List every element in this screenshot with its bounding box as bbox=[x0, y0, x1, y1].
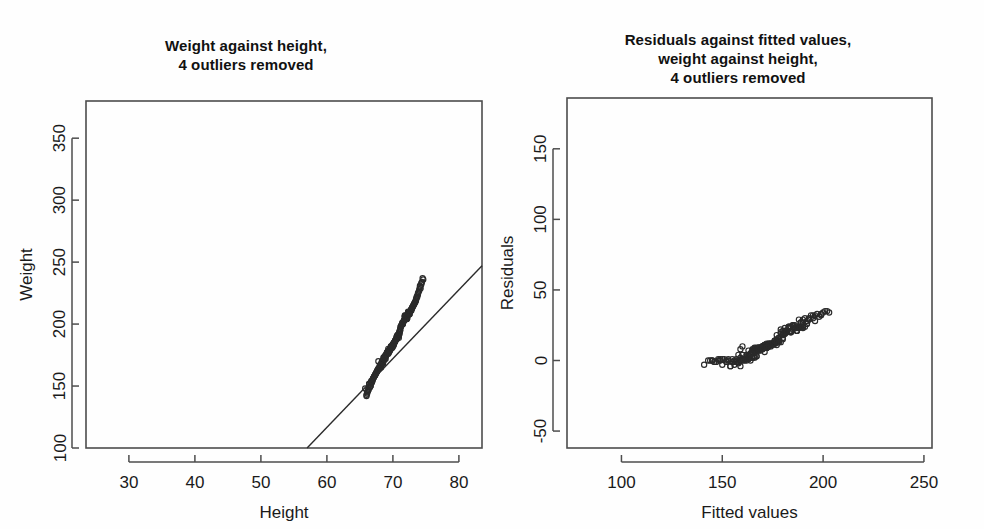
x-tick-label: 40 bbox=[185, 473, 204, 492]
y-tick-label: 200 bbox=[51, 310, 70, 338]
left-regression-line bbox=[307, 266, 482, 448]
x-tick-label: 30 bbox=[119, 473, 138, 492]
y-axis-title: Weight bbox=[17, 248, 36, 301]
y-tick-label: 150 bbox=[51, 372, 70, 400]
right-axis-labels: 100150200250Fitted values-50050100150Res… bbox=[498, 135, 939, 522]
y-tick-label: 50 bbox=[532, 280, 551, 299]
x-tick-label: 250 bbox=[910, 473, 938, 492]
x-tick-label: 60 bbox=[317, 473, 336, 492]
y-tick-label: 100 bbox=[51, 434, 70, 462]
x-tick-label: 70 bbox=[383, 473, 402, 492]
plot-vector-layer: 304050607080Height100150200250300350Weig… bbox=[0, 0, 984, 529]
regression-line bbox=[307, 266, 482, 448]
y-tick-label: 350 bbox=[51, 124, 70, 152]
x-axis-title: Fitted values bbox=[701, 503, 797, 522]
x-tick-label: 200 bbox=[809, 473, 837, 492]
figure-canvas: Weight against height, 4 outliers remove… bbox=[0, 0, 984, 529]
y-tick-label: 0 bbox=[532, 356, 551, 365]
y-axis-title: Residuals bbox=[498, 236, 517, 311]
data-point bbox=[702, 362, 707, 367]
y-tick-label: 250 bbox=[51, 248, 70, 276]
y-tick-label: 300 bbox=[51, 186, 70, 214]
right-axes-group bbox=[553, 98, 932, 462]
x-tick-label: 50 bbox=[251, 473, 270, 492]
y-tick-label: 150 bbox=[532, 135, 551, 163]
x-tick-label: 80 bbox=[449, 473, 468, 492]
x-axis-title: Height bbox=[259, 503, 308, 522]
x-tick-label: 150 bbox=[708, 473, 736, 492]
x-tick-label: 100 bbox=[607, 473, 635, 492]
y-tick-label: 100 bbox=[532, 205, 551, 233]
right-scatter-points bbox=[702, 309, 832, 369]
y-tick-label: -50 bbox=[532, 419, 551, 444]
